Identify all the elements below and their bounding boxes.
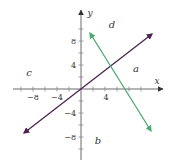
x-tick-label-4: 4 [103,93,108,102]
region-label-b: b [95,135,101,146]
y-axis-label: y [86,8,93,18]
y-tick-label-neg8: −8 [64,133,76,142]
coordinate-plane: −8 −4 4 8 4 −4 −8 x y a b c d [0,0,169,164]
region-label-d: d [109,19,115,30]
y-tick-label-8: 8 [71,37,76,46]
green-line [90,33,151,131]
x-axis-label: x [154,76,159,86]
y-tick-label-4: 4 [71,61,76,70]
x-tick-label-neg4: −4 [51,93,63,102]
purple-line [24,34,152,133]
y-tick-label-neg4: −4 [64,109,76,118]
region-label-c: c [26,67,32,78]
region-label-a: a [133,63,139,74]
x-tick-label-neg8: −8 [27,93,39,102]
